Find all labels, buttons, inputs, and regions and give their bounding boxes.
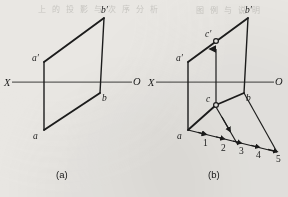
panel-a-label-b: b bbox=[102, 93, 107, 103]
panel-b-division-label-3: 3 bbox=[239, 146, 244, 156]
panel-b-division-label-4: 4 bbox=[256, 150, 261, 160]
panel-b-label-a: a bbox=[177, 131, 182, 141]
panel-a: X O a′ b′ a b (a) bbox=[3, 5, 141, 180]
panel-a-edge-aprime-bprime bbox=[44, 18, 104, 62]
panel-b-tick-arrow-1 bbox=[198, 132, 206, 134]
panel-b-label-c-prime: c′ bbox=[205, 29, 212, 39]
panel-b-label-o: O bbox=[275, 76, 283, 87]
panel-a-label-b-prime: b′ bbox=[101, 5, 109, 15]
panel-b-division-label-5: 5 bbox=[276, 154, 281, 164]
panel-a-label-a-prime: a′ bbox=[32, 53, 40, 63]
panel-b-division-label-2: 2 bbox=[221, 143, 226, 153]
panel-b-caption: (b) bbox=[208, 169, 220, 180]
panel-a-label-o: O bbox=[133, 76, 141, 87]
panel-b-arrow-c-p3 bbox=[222, 117, 230, 131]
figure-root: 上 的 投 影 与 次 序 分 析 图 例 与 说 明 X O a′ b′ a … bbox=[0, 0, 288, 197]
panel-a-edge-a-b bbox=[44, 93, 100, 130]
panel-b-point-marker-c bbox=[214, 103, 219, 108]
panel-b-label-a-prime: a′ bbox=[176, 53, 184, 63]
panel-b-edge-a-c bbox=[188, 105, 216, 130]
panel-b-division-label-1: 1 bbox=[203, 138, 208, 148]
panel-a-label-a: a bbox=[33, 131, 38, 141]
panel-b-label-c: c bbox=[206, 94, 211, 104]
panel-b: X O a′ b′ c′ a b c 1 2 3 4 5 (b) bbox=[147, 5, 283, 180]
panel-a-label-x: X bbox=[3, 77, 11, 88]
panel-a-caption: (a) bbox=[56, 169, 68, 180]
panel-b-label-x: X bbox=[147, 77, 155, 88]
panel-b-label-b-prime: b′ bbox=[245, 5, 253, 15]
projection-figure: X O a′ b′ a b (a) bbox=[0, 0, 288, 197]
panel-b-edge-c-b bbox=[216, 93, 244, 105]
panel-b-point-marker-c-prime bbox=[214, 39, 219, 44]
panel-b-label-b: b bbox=[246, 93, 251, 103]
